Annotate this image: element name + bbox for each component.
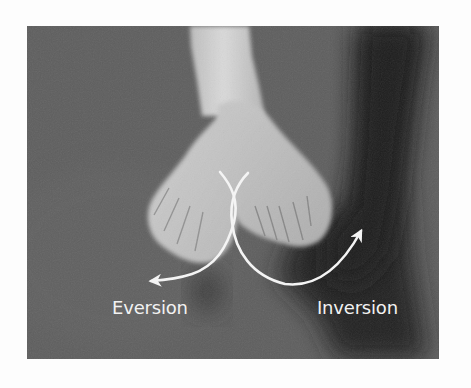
photo: Eversion Inversion (27, 26, 439, 359)
inversion-label: Inversion (317, 298, 398, 318)
eversion-label: Eversion (112, 298, 188, 318)
